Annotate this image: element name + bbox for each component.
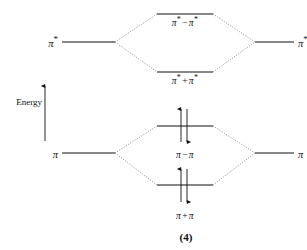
diagram-canvas	[0, 0, 307, 250]
label-right-pi: π	[298, 146, 303, 160]
label-left-pi: π	[53, 146, 58, 160]
label-pi-star-minus-pi-star: π*−π*	[172, 16, 198, 29]
mo-diagram-figure: π* π* π π π*−π* π*+π* π−π π+π Energy (4)	[0, 0, 307, 250]
label-left-pi-star: π*	[48, 35, 58, 49]
figure-caption: (4)	[180, 232, 193, 243]
label-pi-star-plus-pi-star: π*+π*	[172, 74, 198, 87]
energy-axis-label: Energy	[16, 98, 42, 107]
label-right-pi-star: π*	[298, 35, 307, 49]
label-pi-minus-pi: π−π	[176, 148, 194, 161]
label-pi-plus-pi: π+π	[176, 209, 194, 222]
